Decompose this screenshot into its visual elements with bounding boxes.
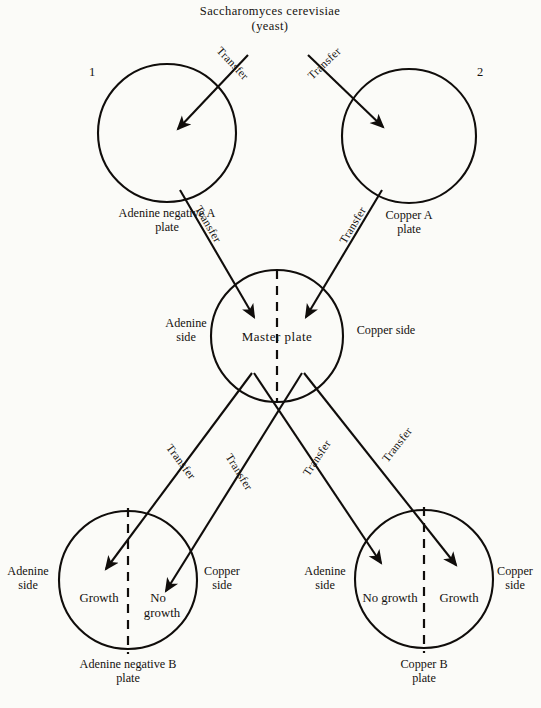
copper-b-left-result: No growth — [362, 591, 418, 605]
transfer-arrow-master-adenine-to-copper-b — [254, 373, 381, 563]
plate-copper-a — [342, 69, 476, 203]
master-adenine-side-line1: Adenine — [165, 316, 206, 330]
transfer-arrow-master-copper-to-copper-b — [304, 373, 456, 565]
plate-copper-a-label-line2: plate — [397, 222, 421, 236]
transfer-arrow-master-copper-to-adenine-b — [166, 373, 302, 591]
plate-number-1: 1 — [89, 65, 95, 79]
copper-b-left-side-line1: Adenine — [304, 564, 345, 578]
transfer-arrow-adenine-a-to-master — [180, 190, 254, 317]
master-copper-side-label: Copper side — [357, 323, 416, 337]
plate-copper-b-label-line2: plate — [412, 671, 436, 685]
master-adenine-side-line2: side — [176, 330, 196, 344]
plate-copper-a-label-line1: Copper A — [385, 208, 432, 222]
plate-adenine-negative-a — [98, 64, 236, 202]
transfer-label-7: Transfer — [300, 438, 333, 478]
adenine-negative-b-right-side-line2: side — [212, 578, 232, 592]
plate-adenine-negative-a-label-line2: plate — [155, 220, 179, 234]
adenine-negative-b-left-side-line1: Adenine — [7, 564, 48, 578]
adenine-negative-b-left-result: Growth — [79, 591, 119, 605]
transfer-label-8: Transfer — [380, 425, 415, 464]
transfer-label-2: Transfer — [305, 45, 343, 82]
adenine-negative-b-right-result-line2: growth — [144, 606, 181, 620]
copper-b-right-side-line2: side — [505, 578, 525, 592]
diagram-page: Saccharomyces cerevisiae (yeast) 1 2 Ade… — [0, 0, 541, 708]
transfer-label-5: Transfer — [164, 442, 198, 482]
replica-plating-diagram: Saccharomyces cerevisiae (yeast) 1 2 Ade… — [0, 0, 541, 708]
adenine-negative-b-left-side-line2: side — [18, 578, 38, 592]
adenine-negative-b-right-result-line1: No — [150, 591, 166, 605]
plate-number-2: 2 — [477, 65, 483, 79]
plate-master-label: Master plate — [242, 329, 313, 344]
transfer-arrow-copper-a-to-master — [306, 190, 382, 317]
copper-b-right-result: Growth — [439, 591, 479, 605]
transfer-arrow-master-adenine-to-adenine-b — [106, 373, 252, 569]
transfer-label-1: Transfer — [215, 44, 252, 82]
transfer-label-6: Transfer — [224, 451, 256, 492]
organism-title-line1: Saccharomyces cerevisiae — [200, 4, 340, 18]
plate-adenine-negative-b-label-line2: plate — [116, 671, 140, 685]
plate-adenine-negative-b-label-line1: Adenine negative B — [80, 657, 177, 671]
adenine-negative-b-right-side-line1: Copper — [204, 564, 240, 578]
plate-copper-b-label-line1: Copper B — [400, 657, 447, 671]
copper-b-right-side-line1: Copper — [497, 564, 533, 578]
copper-b-left-side-line2: side — [315, 578, 335, 592]
organism-title-line2: (yeast) — [252, 19, 289, 33]
